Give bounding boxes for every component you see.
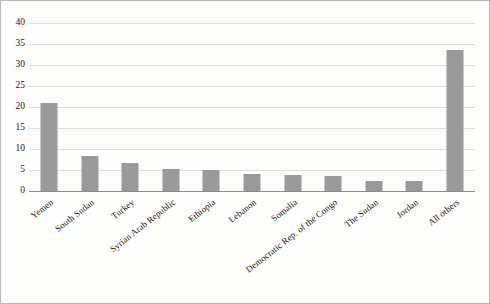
y-tick-label: 30 [1, 60, 25, 70]
bar-slot [110, 23, 151, 191]
bar [203, 170, 220, 191]
bar-slot [394, 23, 435, 191]
bar [81, 156, 98, 191]
bar-slot [313, 23, 354, 191]
x-tick-label: South Sudan [53, 197, 96, 234]
y-tick-label: 15 [1, 123, 25, 133]
bar-slot [272, 23, 313, 191]
bar-slot [70, 23, 111, 191]
bar [284, 175, 301, 191]
x-tick-label: Ethiopia [187, 197, 218, 224]
x-tick-label: All others [426, 197, 461, 228]
y-tick-label: 5 [1, 165, 25, 175]
bar-slot [29, 23, 70, 191]
x-tick-label: Somalia [269, 197, 299, 223]
bar [243, 174, 260, 191]
bar [446, 50, 463, 191]
bar [406, 181, 423, 191]
bar [162, 169, 179, 191]
bars-layer [29, 23, 475, 191]
bar [41, 103, 58, 191]
x-axis-line [29, 191, 475, 192]
y-tick-label: 40 [1, 18, 25, 28]
bar-slot [232, 23, 273, 191]
y-tick-label: 25 [1, 81, 25, 91]
bar [325, 176, 342, 191]
x-tick-label: Jordan [395, 197, 421, 220]
bar-slot [434, 23, 475, 191]
y-axis-labels: 0510152025303540 [1, 23, 25, 191]
bar-chart: 0510152025303540 YemenSouth SudanTurkeyS… [0, 0, 490, 304]
bar [365, 181, 382, 191]
bar-slot [191, 23, 232, 191]
x-axis-labels: YemenSouth SudanTurkeySyrian Arab Republ… [29, 193, 475, 303]
plot-area [29, 23, 475, 191]
x-tick-label: Yemen [29, 197, 55, 221]
x-tick-label: The Sudan [342, 197, 379, 229]
bar-slot [353, 23, 394, 191]
bar-slot [151, 23, 192, 191]
x-tick-label: Lebanon [227, 197, 259, 225]
y-tick-label: 20 [1, 102, 25, 112]
bar [122, 163, 139, 191]
y-tick-label: 35 [1, 39, 25, 49]
y-tick-label: 10 [1, 144, 25, 154]
x-tick-label: Turkey [110, 197, 137, 221]
y-tick-label: 0 [1, 186, 25, 196]
